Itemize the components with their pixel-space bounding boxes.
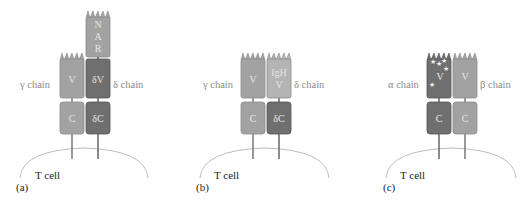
gamma-chain-label: γ chain <box>19 79 51 90</box>
nar-letter-r: R <box>95 43 102 54</box>
nar-letter-n: N <box>94 19 101 30</box>
beta-c-label: C <box>462 113 469 124</box>
svg-text:★: ★ <box>441 57 447 65</box>
nar-domain: N A R <box>86 11 110 57</box>
panel-a: N A R V δV C δC γ chain δ chain T cell (… <box>16 11 148 194</box>
gamma-v-domain: V <box>60 53 84 98</box>
panel-label-a: (a) <box>16 181 29 194</box>
panel-b: V IgH V C δC γ chain δ chain T cell (b) <box>196 53 329 194</box>
t-cell-label: T cell <box>214 169 239 181</box>
delta-v-label: δV <box>92 74 105 85</box>
gamma-c-domain: C <box>60 102 84 134</box>
beta-chain-label: β chain <box>480 79 511 90</box>
beta-c-domain: C <box>453 102 477 134</box>
delta-chain-label: δ chain <box>113 79 144 90</box>
gamma-chain-label: γ chain <box>202 79 234 90</box>
gamma-v-label: V <box>68 74 76 85</box>
svg-text:★: ★ <box>429 81 435 89</box>
svg-text:★: ★ <box>443 65 449 73</box>
delta-c-domain: δC <box>86 102 110 134</box>
beta-v-label: V <box>461 71 469 82</box>
alpha-c-label: C <box>436 113 443 124</box>
t-cell-label: T cell <box>400 169 425 181</box>
panel-c: ★ ★ ★ ★ ★ V V C C α chain β chain T cell… <box>383 53 516 194</box>
panel-label-b: (b) <box>196 181 209 194</box>
alpha-v-domain: ★ ★ ★ ★ ★ V <box>427 53 451 98</box>
igh-v-domain: IgH V <box>267 53 291 98</box>
gamma-v-label: V <box>249 74 257 85</box>
igh-v-label-line1: IgH <box>271 67 287 78</box>
alpha-chain-label: α chain <box>388 79 420 90</box>
delta-c-label: δC <box>92 113 104 124</box>
gamma-c-label: C <box>69 113 76 124</box>
alpha-v-label: V <box>436 71 444 82</box>
delta-c-label: δC <box>273 113 285 124</box>
gamma-v-domain: V <box>241 53 265 98</box>
delta-c-domain: δC <box>267 102 291 134</box>
gamma-c-domain: C <box>241 102 265 134</box>
delta-v-domain: δV <box>86 59 110 98</box>
panel-label-c: (c) <box>383 181 396 194</box>
beta-v-domain: V <box>453 53 477 98</box>
igh-v-label-line2: V <box>275 79 283 90</box>
delta-chain-label: δ chain <box>294 79 325 90</box>
t-cell-label: T cell <box>35 169 60 181</box>
nar-letter-a: A <box>94 31 102 42</box>
tcr-diagram: N A R V δV C δC γ chain δ chain T cell (… <box>0 0 531 203</box>
alpha-c-domain: C <box>427 102 451 134</box>
gamma-c-label: C <box>250 113 257 124</box>
